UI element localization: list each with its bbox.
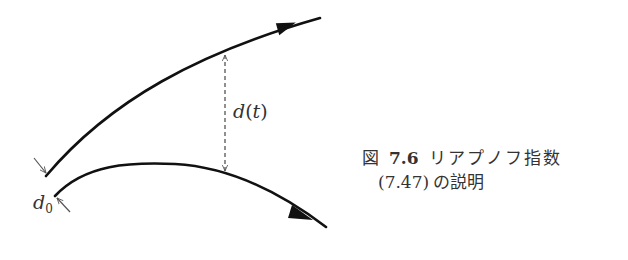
caption-title-line2: の説明 bbox=[433, 172, 484, 192]
separation-label-open: ( bbox=[245, 100, 252, 122]
caption-equation-ref: (7.47) bbox=[378, 172, 429, 192]
upper-trajectory-arrowhead-icon bbox=[276, 23, 296, 36]
caption-prefix: 図 bbox=[362, 148, 381, 168]
lyapunov-diagram bbox=[0, 0, 628, 260]
initial-gap-arrow-lower-icon bbox=[57, 198, 70, 212]
caption-figure-number: 7.6 bbox=[389, 148, 419, 168]
initial-separation-symbol: d bbox=[33, 191, 45, 213]
initial-separation-subscript: 0 bbox=[45, 202, 53, 216]
separation-label-close: ) bbox=[260, 100, 267, 122]
caption-line-2: (7.47)の説明 bbox=[362, 170, 562, 194]
figure-caption: 図7.6リアプノフ指数 (7.47)の説明 bbox=[362, 146, 562, 194]
upper-trajectory bbox=[46, 18, 320, 176]
separation-label-symbol: d bbox=[233, 100, 245, 122]
lower-trajectory bbox=[55, 163, 326, 227]
initial-separation-label: d0 bbox=[33, 193, 53, 215]
lower-trajectory-arrowhead-icon bbox=[288, 205, 313, 220]
caption-line-1: 図7.6リアプノフ指数 bbox=[362, 146, 562, 170]
separation-label: d(t) bbox=[233, 102, 268, 121]
initial-gap-arrow-upper-icon bbox=[34, 158, 46, 173]
caption-title-line1: リアプノフ指数 bbox=[429, 148, 562, 168]
